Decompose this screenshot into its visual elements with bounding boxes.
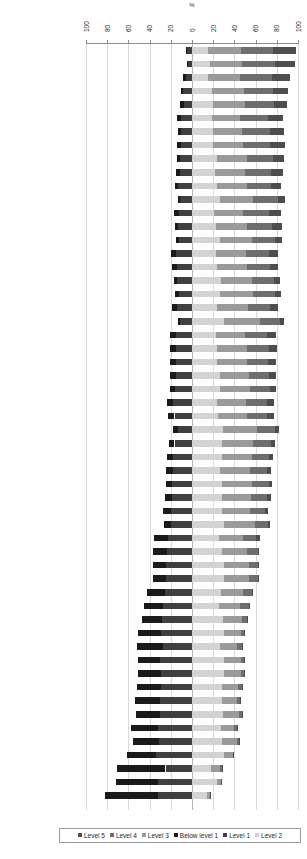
segment-level-1 (177, 277, 192, 284)
segment-level-1 (161, 670, 192, 677)
segment-below-level-1 (135, 697, 160, 704)
segment-level-5 (269, 345, 277, 352)
segment-level-2 (192, 481, 222, 488)
segment-below-level-1 (138, 657, 160, 664)
segment-level-1 (181, 115, 192, 122)
segment-level-2 (192, 670, 224, 677)
segment-level-1 (156, 752, 192, 759)
segment-level-2 (192, 616, 223, 623)
segment-level-5 (272, 223, 282, 230)
segment-level-5 (242, 643, 243, 650)
segment-below-level-1 (178, 128, 182, 135)
segment-level-1 (176, 332, 192, 339)
segment-level-3 (208, 47, 241, 54)
segment-level-1 (167, 548, 192, 555)
segment-level-4 (251, 494, 267, 501)
segment-below-level-1 (133, 738, 159, 745)
segment-below-level-1 (172, 264, 177, 271)
segment-level-3 (223, 711, 239, 718)
segment-level-3 (216, 332, 245, 339)
segment-level-1 (179, 210, 192, 217)
segment-level-5 (269, 481, 272, 488)
segment-level-3 (220, 291, 254, 298)
segment-level-2 (192, 399, 217, 406)
proficiency-levels-chart: % 10080604020020406080100 KoreaFinlandHo… (0, 0, 307, 859)
legend-swatch-icon (142, 833, 146, 837)
segment-below-level-1 (170, 345, 176, 352)
segment-level-1 (177, 264, 192, 271)
segment-level-3 (216, 223, 247, 230)
segment-level-3 (217, 264, 247, 271)
segment-level-4 (246, 250, 269, 257)
segment-level-1 (160, 657, 192, 664)
segment-level-3 (224, 752, 233, 759)
segment-level-3 (213, 128, 242, 135)
segment-level-1 (184, 101, 192, 108)
segment-below-level-1 (167, 454, 173, 461)
segment-below-level-1 (170, 359, 176, 366)
segment-level-5 (258, 562, 259, 569)
segment-level-4 (249, 575, 258, 582)
segment-level-3 (221, 725, 235, 732)
segment-level-5 (256, 535, 260, 542)
segment-level-1 (180, 155, 192, 162)
segment-level-2 (192, 630, 224, 637)
segment-level-1 (161, 684, 192, 691)
segment-level-2 (192, 318, 224, 325)
segment-level-1 (159, 738, 192, 745)
segment-below-level-1 (170, 332, 176, 339)
segment-level-3 (213, 101, 245, 108)
segment-level-3 (213, 142, 243, 149)
legend-label: Level 2 (261, 832, 282, 839)
segment-level-2 (192, 88, 212, 95)
segment-level-4 (250, 386, 270, 393)
segment-below-level-1 (177, 142, 181, 149)
segment-below-level-1 (147, 589, 164, 596)
segment-level-5 (258, 575, 259, 582)
segment-level-4 (255, 521, 268, 528)
segment-level-1 (172, 481, 192, 488)
segment-below-level-1 (174, 210, 179, 217)
segment-level-1 (158, 725, 192, 732)
segment-level-4 (243, 142, 271, 149)
segment-level-1 (163, 603, 192, 610)
segment-level-2 (192, 792, 207, 799)
legend-item: Level 5 (78, 832, 105, 839)
segment-level-2 (192, 725, 221, 732)
segment-level-1 (173, 467, 192, 474)
segment-level-3 (222, 440, 254, 447)
segment-level-2 (192, 548, 222, 555)
segment-level-1 (176, 359, 192, 366)
segment-level-1 (166, 562, 192, 569)
segment-level-3 (217, 183, 247, 190)
segment-level-2 (192, 413, 218, 420)
segment-level-3 (217, 399, 246, 406)
segment-below-level-1 (175, 291, 179, 298)
segment-level-2 (192, 372, 220, 379)
segment-level-1 (172, 494, 192, 501)
segment-level-5 (271, 440, 275, 447)
segment-level-2 (192, 711, 223, 718)
legend-label: Level 1 (229, 832, 250, 839)
segment-level-4 (249, 372, 269, 379)
segment-level-2 (192, 657, 224, 664)
segment-level-5 (275, 426, 279, 433)
segment-level-5 (274, 277, 280, 284)
legend-item: Level 2 (255, 832, 282, 839)
segment-level-5 (274, 101, 286, 108)
segment-level-2 (192, 196, 220, 203)
segment-level-2 (192, 250, 216, 257)
segment-level-5 (275, 61, 295, 68)
segment-level-4 (242, 61, 275, 68)
segment-level-4 (250, 467, 267, 474)
segment-level-3 (217, 359, 247, 366)
segment-level-4 (252, 237, 275, 244)
segment-level-4 (260, 318, 280, 325)
segment-level-5 (252, 589, 254, 596)
segment-below-level-1 (169, 440, 175, 447)
segment-level-4 (247, 548, 258, 555)
segment-below-level-1 (105, 792, 158, 799)
segment-level-1 (181, 142, 192, 149)
segment-level-1 (178, 223, 192, 230)
segment-level-4 (241, 47, 273, 54)
